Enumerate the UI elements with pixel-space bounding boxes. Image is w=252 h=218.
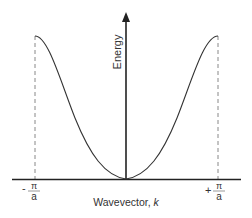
right-bound-sign: + <box>205 184 211 196</box>
y-axis-arrow-icon <box>122 12 130 22</box>
x-axis-symbol: k <box>154 196 160 208</box>
right-bound-numerator: π <box>216 181 222 191</box>
band-diagram: Energy - π a + π a Wavevector, k <box>0 0 252 218</box>
left-bound-sign: - <box>22 182 26 194</box>
x-axis-label-text: Wavevector, <box>93 196 153 208</box>
left-bound-denominator: a <box>31 191 37 202</box>
x-axis-label: Wavevector, k <box>93 196 159 208</box>
y-axis-label: Energy <box>111 34 123 69</box>
left-bound-numerator: π <box>31 181 37 191</box>
right-bound-denominator: a <box>216 191 222 202</box>
